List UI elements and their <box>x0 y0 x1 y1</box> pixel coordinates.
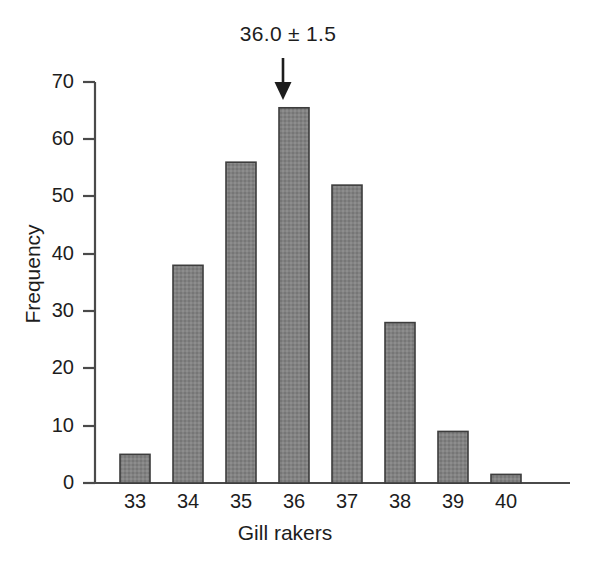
bar-series <box>120 108 521 483</box>
x-tick-label-39: 39 <box>431 490 475 513</box>
x-tick-label-38: 38 <box>378 490 422 513</box>
plot-canvas <box>0 0 596 567</box>
histogram-figure: 36.0 ± 1.5 <box>0 0 596 567</box>
x-tick-label-36: 36 <box>272 490 316 513</box>
y-axis-title: Frequency <box>21 194 45 354</box>
bar <box>385 323 415 483</box>
bar <box>438 431 468 483</box>
bar <box>226 162 256 483</box>
x-axis-title: Gill rakers <box>120 521 450 545</box>
x-tick-label-37: 37 <box>325 490 369 513</box>
y-tick-label-70: 70 <box>28 70 74 93</box>
x-tick-label-33: 33 <box>113 490 157 513</box>
bar <box>173 265 203 483</box>
bar <box>491 474 521 483</box>
x-tick-label-40: 40 <box>484 490 528 513</box>
y-tick-label-0: 0 <box>28 471 74 494</box>
y-tick-label-10: 10 <box>28 414 74 437</box>
x-tick-label-35: 35 <box>219 490 263 513</box>
bar <box>279 108 309 483</box>
arrow-annotation <box>275 58 292 100</box>
bar <box>120 454 150 483</box>
y-tick-label-60: 60 <box>28 127 74 150</box>
y-axis-ticks <box>83 82 95 483</box>
bar <box>332 185 362 483</box>
x-tick-label-34: 34 <box>166 490 210 513</box>
y-tick-label-20: 20 <box>28 356 74 379</box>
